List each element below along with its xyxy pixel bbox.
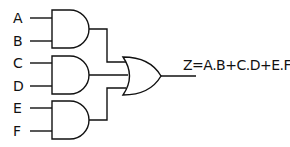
input-label-b: B (13, 34, 23, 48)
input-label-e: E (13, 101, 22, 115)
and-gate-2 (52, 56, 89, 94)
input-label-d: D (13, 79, 24, 93)
logic-diagram: A B C D E F Z=A.B+C.D+E.F (0, 0, 290, 147)
or-gate (123, 57, 161, 95)
input-label-f: F (13, 124, 21, 138)
input-label-a: A (13, 11, 23, 25)
and-gate-1 (52, 10, 89, 48)
input-label-c: C (13, 56, 23, 70)
output-expression: Z=A.B+C.D+E.F (183, 57, 290, 73)
and-gate-3 (52, 101, 89, 139)
circuit-wires (0, 0, 290, 147)
